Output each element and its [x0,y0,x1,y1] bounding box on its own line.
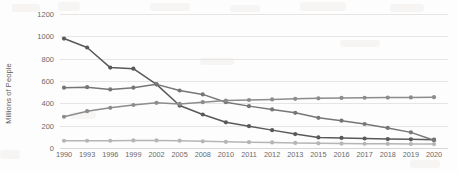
data-point [201,100,205,104]
data-point [178,139,182,143]
data-point [339,141,343,145]
data-point [201,139,205,143]
series-lines [60,14,448,148]
data-point [131,86,135,90]
data-point [363,122,367,126]
x-tick-label: 2002 [148,150,164,159]
y-tick-label: 0 [8,144,54,153]
data-point [247,104,251,108]
data-point [316,141,320,145]
data-point [316,135,320,139]
plot-area [60,14,448,148]
gridline-0 [60,148,448,149]
data-point [131,103,135,107]
data-point [154,101,158,105]
data-point [62,86,66,90]
data-point [432,138,436,142]
y-tick-label: 400 [8,99,54,108]
x-tick-label: 2017 [357,150,373,159]
x-tick-label: 2012 [264,150,280,159]
scan-artifact [230,5,260,12]
data-point [293,111,297,115]
data-point [178,88,182,92]
data-point [85,139,89,143]
data-point [293,141,297,145]
scan-artifact [58,2,80,11]
data-point [224,120,228,124]
x-tick-label: 2010 [218,150,234,159]
data-point [293,97,297,101]
line-chart: Millions of People 020040060080010001200… [0,0,458,172]
data-point [363,142,367,146]
x-tick-label: 2019 [403,150,419,159]
data-point [316,116,320,120]
data-point [108,139,112,143]
data-point [270,128,274,132]
data-point [85,85,89,89]
data-point [62,115,66,119]
data-point [363,96,367,100]
data-point [409,137,413,141]
x-tick-label: 2013 [287,150,303,159]
data-point [339,96,343,100]
x-tick-label: 2018 [380,150,396,159]
scan-artifact [300,2,346,11]
data-point [339,119,343,123]
data-point [386,142,390,146]
data-point [62,36,66,40]
data-point [154,82,158,86]
x-tick-label: 1990 [56,150,72,159]
data-point [316,96,320,100]
data-point [154,138,158,142]
data-point [409,130,413,134]
data-point [178,102,182,106]
y-tick-label: 600 [8,77,54,86]
data-point [201,92,205,96]
x-tick-label: 2020 [426,150,442,159]
data-point [386,137,390,141]
data-point [62,139,66,143]
y-tick-label: 1200 [8,10,54,19]
data-point [270,107,274,111]
data-point [409,142,413,146]
data-point [432,95,436,99]
data-point [270,140,274,144]
x-tick-label: 1999 [125,150,141,159]
data-point [201,112,205,116]
y-tick-label: 800 [8,54,54,63]
data-point [108,87,112,91]
data-point [409,95,413,99]
data-point [108,66,112,70]
x-tick-label: 2016 [333,150,349,159]
data-point [270,97,274,101]
x-tick-label: 2005 [172,150,188,159]
series-line [64,84,434,140]
data-point [363,136,367,140]
data-point [386,126,390,130]
x-tick-label: 1996 [102,150,118,159]
data-point [247,124,251,128]
y-tick-label: 1000 [8,32,54,41]
data-point [131,67,135,71]
data-point [85,45,89,49]
data-point [293,132,297,136]
data-point [247,98,251,102]
data-point [386,95,390,99]
y-axis-ticks: 020040060080010001200 [8,0,54,172]
data-point [108,106,112,110]
scan-artifact [150,3,190,11]
data-point [85,109,89,113]
data-point [224,98,228,102]
scan-artifact [390,4,424,12]
series-series-flat-then-declining [62,82,436,142]
x-axis-ticks: 1990199319961999200220052008201020112012… [60,150,448,170]
y-tick-label: 200 [8,121,54,130]
data-point [224,140,228,144]
x-tick-label: 2011 [241,150,257,159]
data-point [131,138,135,142]
x-tick-label: 2008 [195,150,211,159]
x-tick-label: 1993 [79,150,95,159]
data-point [247,140,251,144]
data-point [339,136,343,140]
data-point [432,142,436,146]
